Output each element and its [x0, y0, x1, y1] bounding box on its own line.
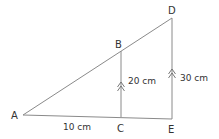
point-label-c: C	[117, 123, 124, 134]
measurement-bc: 20 cm	[128, 76, 156, 86]
point-label-b: B	[115, 39, 122, 50]
measurement-ac: 10 cm	[63, 122, 91, 132]
segment-ae	[23, 115, 172, 119]
similar-triangles-diagram: A B C D E 20 cm 30 cm 10 cm	[0, 0, 219, 139]
point-label-d: D	[168, 5, 176, 16]
segment-ad	[23, 18, 172, 115]
measurement-de: 30 cm	[180, 73, 208, 83]
point-label-e: E	[168, 124, 174, 135]
point-label-a: A	[11, 110, 18, 121]
